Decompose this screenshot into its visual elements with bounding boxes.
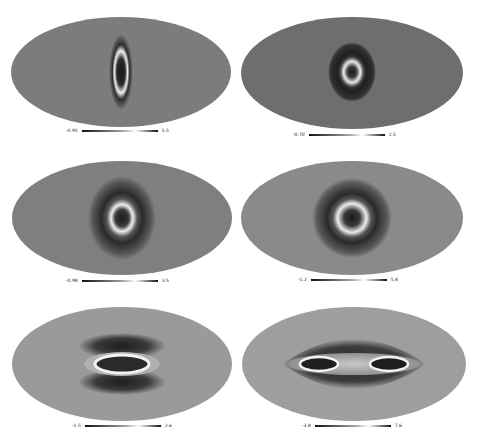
colorbar-gradient (309, 134, 385, 136)
colorbar-4: -1.2 5.8 (298, 276, 398, 284)
sky-map-5 (0, 292, 238, 440)
sky-map-panel-6: -3.8 7.6 (238, 292, 476, 438)
sky-map-panel-1: -0.95 5.5 (0, 0, 238, 146)
colorbar-max: 5.5 (162, 127, 169, 135)
colorbar-max: 7.6 (395, 422, 402, 430)
colorbar-max: 3.5 (162, 277, 169, 285)
colorbar-5: -1.5 2.6 (72, 422, 172, 430)
sky-map-panel-4: -1.2 5.8 (238, 146, 476, 292)
sky-map-4 (238, 146, 476, 292)
sky-map-panel-2: -0.70 2.5 (238, 0, 476, 146)
sky-map-6 (238, 292, 476, 440)
colorbar-min: -0.95 (66, 127, 78, 135)
colorbar-max: 2.6 (165, 422, 172, 430)
colorbar-gradient (315, 425, 391, 427)
colorbar-min: -0.98 (66, 277, 78, 285)
colorbar-max: 2.5 (389, 131, 396, 139)
sky-map-panel-3: -0.98 3.5 (0, 146, 238, 292)
colorbar-gradient (82, 280, 158, 282)
colorbar-gradient (85, 425, 161, 427)
colorbar-1: -0.95 5.5 (66, 127, 169, 135)
colorbar-3: -0.98 3.5 (66, 277, 169, 285)
sky-map-3 (0, 146, 238, 292)
sky-map-panel-5: -1.5 2.6 (0, 292, 238, 438)
colorbar-min: -1.2 (298, 276, 307, 284)
colorbar-min: -0.70 (293, 131, 305, 139)
colorbar-2: -0.70 2.5 (293, 131, 396, 139)
colorbar-max: 5.8 (391, 276, 398, 284)
sky-map-1 (0, 0, 238, 146)
sky-map-2 (238, 0, 476, 146)
colorbar-gradient (311, 279, 387, 281)
colorbar-min: -3.8 (302, 422, 311, 430)
colorbar-gradient (82, 130, 158, 132)
colorbar-6: -3.8 7.6 (302, 422, 402, 430)
colorbar-min: -1.5 (72, 422, 81, 430)
